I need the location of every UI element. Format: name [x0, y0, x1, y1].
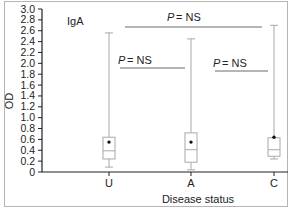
significance-top: P = NS	[125, 11, 262, 27]
svg-text:P: P	[167, 11, 175, 23]
box-a	[185, 39, 197, 170]
y-axis-title: OD	[3, 93, 15, 110]
x-axis-ticks: UAC	[105, 172, 278, 189]
significance-u-a: P = NS	[118, 54, 185, 68]
significance-a-c: P = NS	[213, 57, 268, 71]
svg-text:= NS: = NS	[127, 54, 152, 66]
svg-text:P: P	[213, 57, 221, 69]
y-axis-ticks: 00.20.40.60.81.01.21.41.61.82.02.22.42.6…	[20, 3, 42, 178]
box-plot-chart: 00.20.40.60.81.01.21.41.61.82.02.22.42.6…	[0, 0, 293, 212]
svg-text:= NS: = NS	[222, 57, 247, 69]
x-axis-title: Disease status	[162, 193, 235, 205]
y-tick-label: 3.0	[20, 3, 35, 15]
svg-text:= NS: = NS	[176, 11, 201, 23]
y-tick-label: 0	[29, 166, 35, 178]
y-tick-label: 0.2	[20, 155, 35, 167]
y-tick-label: 1.8	[20, 68, 35, 80]
mean-marker	[189, 140, 192, 143]
y-tick-label: 2.2	[20, 46, 35, 58]
svg-text:P: P	[118, 54, 126, 66]
mean-marker	[107, 140, 110, 143]
mean-marker	[272, 136, 275, 139]
box-series	[103, 25, 280, 170]
y-tick-label: 2.4	[20, 35, 35, 47]
y-tick-label: 1.6	[20, 79, 35, 91]
x-tick-label-u: U	[105, 177, 113, 189]
y-tick-label: 1.0	[20, 111, 35, 123]
y-tick-label: 2.8	[20, 13, 35, 25]
y-tick-label: 2.0	[20, 57, 35, 69]
y-tick-label: 1.2	[20, 100, 35, 112]
y-tick-label: 0.6	[20, 133, 35, 145]
x-tick-label-a: A	[187, 177, 195, 189]
y-tick-label: 0.8	[20, 122, 35, 134]
y-tick-label: 0.4	[20, 144, 35, 156]
box-u	[103, 33, 115, 167]
y-tick-label: 2.6	[20, 24, 35, 36]
panel-label: IgA	[67, 15, 84, 27]
x-tick-label-c: C	[270, 177, 278, 189]
y-tick-label: 1.4	[20, 89, 35, 101]
box-c	[268, 25, 280, 159]
